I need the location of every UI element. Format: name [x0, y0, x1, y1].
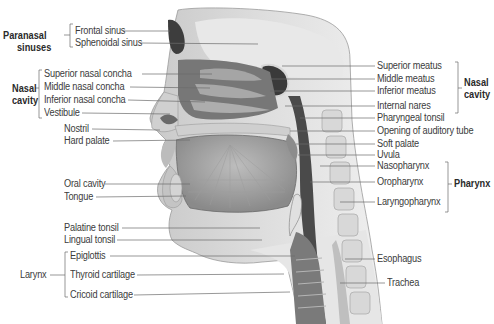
- label-esophagus: Esophagus: [377, 253, 421, 264]
- group-paranasal-sinuses-line1: Paranasal: [3, 30, 46, 41]
- label-middle-meatus: Middle meatus: [377, 73, 434, 84]
- group-nasal-cavity-right-line2: cavity: [464, 89, 490, 100]
- label-cricoid-cartilage: Cricoid cartilage: [70, 289, 133, 300]
- label-tongue: Tongue: [64, 191, 93, 202]
- label-soft-palate: Soft palate: [377, 138, 419, 149]
- label-pharyngeal-tonsil: Pharyngeal tonsil: [377, 112, 444, 123]
- label-laryngopharynx: Laryngopharynx: [377, 196, 440, 207]
- label-oral-cavity: Oral cavity: [64, 178, 105, 189]
- group-nasal-cavity-right-line1: Nasal: [464, 77, 489, 88]
- group-paranasal-sinuses-line2: sinuses: [17, 42, 51, 53]
- label-epiglottis: Epiglottis: [70, 250, 105, 261]
- anatomy-figure: Paranasal sinuses Frontal sinus Sphenoid…: [0, 0, 494, 324]
- group-nasal-cavity-left-line1: Nasal: [12, 83, 37, 94]
- label-vestibule: Vestibule: [44, 107, 80, 118]
- label-uvula: Uvula: [377, 149, 400, 160]
- label-opening-of-auditory-tube: Opening of auditory tube: [377, 125, 473, 136]
- group-nasal-cavity-left-line2: cavity: [12, 95, 38, 106]
- label-nasopharynx: Nasopharynx: [377, 160, 429, 171]
- label-sphenoidal-sinus: Sphenoidal sinus: [75, 37, 142, 48]
- label-internal-nares: Internal nares: [377, 100, 431, 111]
- label-thyroid-cartilage: Thyroid cartilage: [70, 269, 135, 280]
- label-superior-meatus: Superior meatus: [377, 60, 442, 71]
- label-hard-palate: Hard palate: [64, 135, 110, 146]
- label-superior-nasal-concha: Superior nasal concha: [44, 68, 132, 79]
- label-oropharynx: Oropharynx: [377, 176, 423, 187]
- label-palatine-tonsil: Palatine tonsil: [64, 222, 119, 233]
- group-larynx: Larynx: [20, 269, 47, 280]
- label-middle-nasal-concha: Middle nasal concha: [44, 81, 124, 92]
- label-frontal-sinus: Frontal sinus: [75, 25, 125, 36]
- label-lingual-tonsil: Lingual tonsil: [64, 234, 115, 245]
- group-pharynx: Pharynx: [454, 178, 490, 189]
- label-inferior-nasal-concha: Inferior nasal concha: [44, 94, 126, 105]
- label-inferior-meatus: Inferior meatus: [377, 85, 436, 96]
- label-trachea: Trachea: [387, 277, 419, 288]
- label-nostril: Nostril: [64, 123, 89, 134]
